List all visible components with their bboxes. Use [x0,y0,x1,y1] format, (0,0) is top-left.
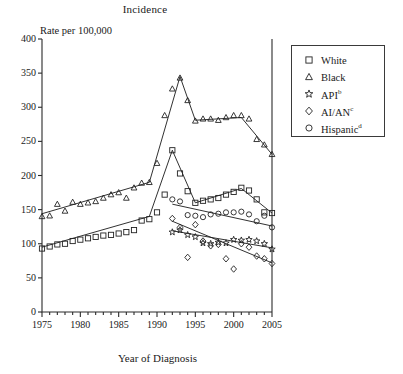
x-tick-label: 1975 [22,320,62,330]
legend-item-black[interactable]: Black [302,69,346,85]
trend-line-hispanic [172,204,272,226]
legend-item-hispanic[interactable]: Hispanicd [302,120,362,136]
legend-item-label: APIb [321,88,341,101]
triangle-marker [302,70,316,84]
diamond-marker [302,104,316,118]
y-tick-label: 100 [8,239,36,249]
x-tick-label: 1990 [137,320,177,330]
legend-item-api[interactable]: APIb [302,86,341,102]
x-tick-label: 1995 [175,320,215,330]
legend-item-ai-an[interactable]: AI/ANc [302,103,353,119]
x-tick-label: 1980 [60,320,100,330]
flower-marker [302,87,316,101]
x-tick-label: 1985 [99,320,139,330]
trend-line-ai-an [172,221,272,263]
legend-footnote-marker: c [350,105,353,113]
y-tick-label: 150 [8,205,36,215]
square-marker [302,53,316,67]
legend-footnote-marker: b [338,88,342,96]
incidence-chart-figure: Incidence Rate per 100,000 Year of Diagn… [0,0,403,374]
y-axis-label: Rate per 100,000 [40,25,112,36]
x-tick-label: 2005 [252,320,292,330]
series-white [39,148,274,251]
legend-item-label: AI/ANc [321,105,353,118]
axis-lines [42,39,272,312]
legend-footnote-marker: d [358,122,362,130]
y-tick-label: 0 [8,307,36,317]
circle-marker [302,121,316,135]
trend-line-white [42,150,272,247]
legend-item-white[interactable]: White [302,52,347,68]
y-tick-label: 200 [8,171,36,181]
legend-item-label: Hispanicd [321,122,362,135]
chart-title: Incidence [0,3,290,15]
y-tick-label: 250 [8,136,36,146]
chart-legend: WhiteBlackAPIbAI/ANcHispanicd [291,45,385,137]
x-axis-label: Year of Diagnosis [42,352,273,364]
y-tick-label: 50 [8,273,36,283]
y-tick-label: 350 [8,68,36,78]
x-tick-label: 2000 [214,320,254,330]
legend-item-label: Black [321,72,346,83]
y-tick-label: 400 [8,34,36,44]
series-black [39,75,275,219]
legend-item-label: White [321,55,347,66]
y-tick-label: 300 [8,102,36,112]
